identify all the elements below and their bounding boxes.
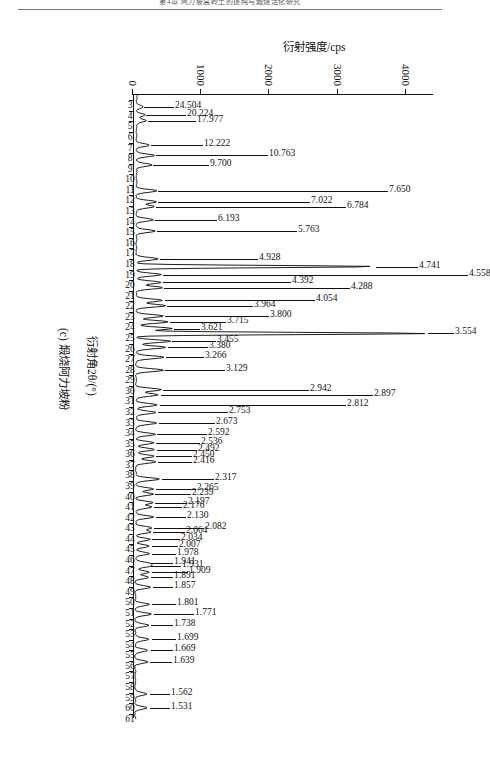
x-tick-label: 59	[125, 693, 135, 703]
peak-leader-line	[166, 357, 204, 358]
peak-label: 1.699	[177, 632, 198, 642]
figure-stage: 衍射强度/cps 衍射角2θ/(°) (c) 煅烧阿力坡粉 0100020003…	[15, 36, 445, 736]
peak-leader-line	[428, 333, 454, 334]
peak-label: 3.715	[227, 315, 248, 325]
peak-label: 4.054	[316, 294, 337, 304]
x-tick-label: 38	[125, 470, 135, 480]
x-tick-label: 35	[125, 439, 135, 449]
peak-leader-line	[152, 554, 176, 555]
x-axis-title: 衍射角2θ/(°)	[85, 336, 101, 396]
x-tick-label: 14	[125, 217, 135, 227]
x-tick-label: 16	[125, 238, 135, 248]
x-tick-label: 5	[128, 121, 133, 131]
x-tick-label: 39	[125, 481, 135, 491]
peak-label: 1.891	[174, 570, 195, 580]
peak-label: 1.771	[195, 607, 216, 617]
peak-leader-line	[160, 405, 346, 406]
x-tick-label: 19	[125, 270, 135, 280]
x-tick-label: 47	[125, 566, 135, 576]
x-tick-label: 30	[125, 386, 135, 396]
x-tick-label: 44	[125, 534, 135, 544]
peak-leader-line	[157, 434, 207, 435]
peak-label: 3.964	[254, 299, 275, 309]
peak-leader-line	[157, 231, 297, 232]
x-tick-label: 10	[125, 174, 135, 184]
peak-label: 2.082	[205, 521, 226, 531]
peak-leader-line	[152, 604, 176, 605]
peak-label: 2.812	[347, 398, 368, 408]
peak-leader-line	[156, 207, 346, 208]
peak-label: 2.176	[183, 500, 204, 510]
xrd-figure: 衍射强度/cps 衍射角2θ/(°) (c) 煅烧阿力坡粉 0100020003…	[15, 36, 445, 736]
x-tick-label: 21	[125, 291, 135, 301]
peak-label: 6.784	[347, 200, 368, 210]
x-tick-label: 34	[125, 428, 135, 438]
peak-leader-line	[151, 577, 173, 578]
x-tick-label: 31	[125, 396, 135, 406]
x-tick-label: 26	[125, 344, 135, 354]
peak-label: 1.531	[171, 701, 192, 711]
peak-label: 4.741	[419, 260, 440, 270]
peak-label: 2.416	[194, 455, 215, 465]
x-tick-label: 60	[125, 703, 135, 713]
peak-label: 1.738	[174, 618, 195, 628]
peak-leader-line	[148, 121, 196, 122]
peak-leader-line	[151, 650, 173, 651]
peak-leader-line	[152, 539, 180, 540]
peak-leader-line	[168, 347, 208, 348]
peak-label: 3.380	[209, 341, 230, 351]
peak-label: 2.673	[216, 416, 237, 426]
x-tick-label: 28	[125, 365, 135, 375]
x-tick-label: 23	[125, 312, 135, 322]
peak-leader-line	[156, 517, 186, 518]
peak-leader-line	[155, 494, 191, 495]
peak-leader-line	[159, 462, 193, 463]
peak-leader-line	[146, 115, 186, 116]
peak-label: 2.753	[230, 406, 251, 416]
x-tick-label: 6	[128, 132, 133, 142]
x-tick-label: 25	[125, 333, 135, 343]
running-header: 第4章 阿力坡高岭土的提纯与煅烧活化研究	[0, 0, 460, 8]
peak-leader-line	[150, 694, 170, 695]
peak-leader-line	[151, 563, 173, 564]
peak-label: 3.129	[226, 363, 247, 373]
header-divider-rule	[18, 9, 442, 10]
peak-label: 2.897	[374, 388, 395, 398]
x-tick-label: 24	[125, 322, 135, 332]
x-tick-label: 48	[125, 576, 135, 586]
peak-leader-line	[151, 625, 173, 626]
x-tick-label: 46	[125, 555, 135, 565]
x-tick-label: 42	[125, 513, 135, 523]
peak-label: 2.317	[215, 472, 236, 482]
x-tick-label: 61	[125, 714, 135, 724]
x-tick-label: 7	[128, 143, 133, 153]
peak-leader-line	[157, 450, 197, 451]
peak-leader-line	[156, 489, 196, 490]
peak-leader-line	[163, 275, 468, 276]
x-tick-label: 40	[125, 492, 135, 502]
peak-leader-line	[165, 316, 269, 317]
x-tick-label: 41	[125, 502, 135, 512]
peak-leader-line	[154, 614, 194, 615]
peak-leader-line	[174, 329, 200, 330]
x-tick-label: 36	[125, 449, 135, 459]
peak-label: 4.392	[292, 276, 313, 286]
x-tick-label: 22	[125, 301, 135, 311]
y-tick-label: 3000	[332, 64, 344, 86]
x-tick-label: 3	[128, 100, 133, 110]
peak-label: 1.669	[174, 643, 195, 653]
peak-leader-line	[159, 412, 229, 413]
peak-leader-line	[376, 267, 418, 268]
peak-label: 4.928	[259, 252, 280, 262]
x-tick-label: 43	[125, 523, 135, 533]
peak-leader-line	[164, 288, 350, 289]
x-tick-label: 49	[125, 587, 135, 597]
peak-label: 1.639	[173, 655, 194, 665]
peak-leader-line	[153, 587, 173, 588]
x-tick-label: 50	[125, 597, 135, 607]
peak-leader-line	[155, 220, 217, 221]
peak-label: 17.977	[197, 114, 223, 124]
y-tick-label: 0	[127, 81, 139, 87]
peak-label: 3.621	[201, 322, 222, 332]
peak-label: 5.763	[298, 224, 319, 234]
